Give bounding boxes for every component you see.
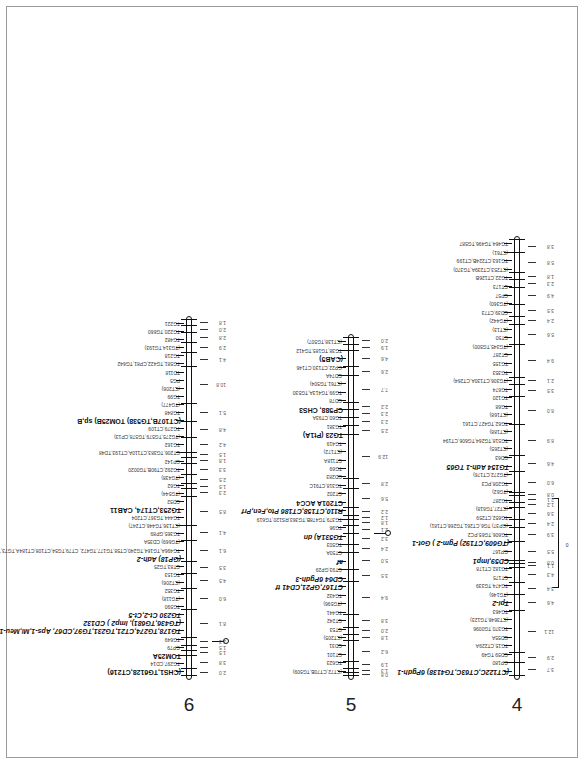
interval-stub: [362, 340, 370, 341]
marker-label: (TG345,TG500): [473, 344, 508, 350]
distance-value: 2.4: [381, 546, 388, 552]
distance-value: 3.4: [547, 586, 554, 592]
locus-tick: [509, 519, 525, 520]
distance-value: 6.1: [219, 548, 226, 554]
marker-leader-line: [504, 628, 512, 629]
interval-stub: [528, 440, 536, 441]
marker-leader-line: [504, 645, 512, 646]
locus-tick: [181, 588, 197, 589]
marker-label: PG5: [170, 378, 180, 384]
marker-label: CP57: [495, 293, 508, 299]
marker-label: TG68: [495, 404, 508, 410]
marker-label: (CT206): [162, 580, 180, 586]
marker-label: TG99: [167, 394, 180, 400]
interval-stub: [362, 630, 370, 631]
interval-stub: [528, 295, 536, 296]
locus-tick: [181, 540, 197, 541]
interval-stub: [362, 670, 370, 671]
locus-tick: [181, 637, 197, 638]
interval-stub: [362, 406, 370, 407]
marker-leader-line: [338, 544, 346, 545]
locus-tick: [509, 492, 525, 493]
distance-value: 5.6: [547, 332, 554, 338]
marker-leader-line: [504, 491, 512, 492]
interval-stub: [528, 320, 536, 321]
marker-leader-line: [176, 501, 184, 502]
marker-leader-line: [338, 527, 346, 528]
locus-tick: [343, 675, 359, 676]
interval-stub: [200, 486, 208, 487]
distance-value: 2.0: [219, 327, 226, 333]
marker-leader-line: [176, 493, 184, 494]
interval-stub: [528, 551, 536, 552]
marker-leader-line: [176, 590, 184, 591]
marker-label: (CT136,TG446,CT247): [129, 523, 180, 529]
interval-stub: [362, 498, 370, 499]
marker-leader-line: [504, 389, 512, 390]
distance-value: 6.0: [547, 480, 554, 486]
interval-stub: [200, 599, 208, 600]
interval-stub: [200, 647, 208, 648]
interval-stub: [362, 561, 370, 562]
interval-stub: [200, 322, 208, 323]
distance-value: 1.9: [381, 662, 388, 668]
marker-leader-line: [176, 550, 184, 551]
distance-value: 3.6: [547, 511, 554, 517]
distance-value: 5.5: [547, 549, 554, 555]
marker-label: TG279,CT109: [148, 426, 180, 432]
interval-stub: [528, 565, 536, 566]
locus-tick: [509, 239, 525, 240]
marker-label: TG62: [167, 483, 180, 489]
distance-value: 2.4: [547, 318, 554, 324]
marker-label: CT202: [327, 491, 342, 497]
marker-leader-line: [176, 469, 184, 470]
marker-leader-line: [338, 612, 346, 613]
interval-stub: [528, 574, 536, 575]
distance-value: 12.1: [544, 629, 554, 635]
interval-stub: [362, 674, 370, 675]
locus-tick: [509, 527, 525, 528]
distance-value: 4.9: [547, 293, 554, 299]
marker-label: CD63: [495, 455, 508, 461]
distance-value: 2.8: [219, 335, 226, 341]
distance-value: 3.2: [381, 536, 388, 542]
marker-leader-line: [504, 414, 512, 415]
marker-label: (TG609,CT192) Pgm-2 ) Got-1: [412, 541, 509, 548]
marker-label: TG154 Adh-1 TG65: [447, 464, 509, 471]
marker-leader-line: [504, 483, 512, 484]
marker-leader-line: [504, 577, 512, 578]
marker-label: TG623: [327, 660, 342, 666]
marker-label: TG60,CT93A: [313, 415, 342, 421]
distance-value: 2.3: [381, 411, 388, 417]
interval-stub: [200, 460, 208, 461]
marker-label: TG218: [165, 353, 180, 359]
distance-value: 3.5: [547, 308, 554, 314]
interval-stub: [362, 529, 370, 530]
chromosome-bar: [186, 316, 192, 680]
interval-stub: [362, 664, 370, 665]
interval-stub: [528, 504, 536, 505]
marker-leader-line: [504, 260, 512, 261]
distance-value: 10.8: [216, 382, 226, 388]
marker-label: TG155: [493, 361, 508, 367]
marker-label: GP180: [492, 660, 508, 666]
chromosome-6: 6 (CHS1,TG6128,CT216)TG297,CD14TOM25AGP7…: [100, 0, 260, 764]
marker-leader-line: [338, 468, 346, 469]
distance-value: 2.6: [381, 369, 388, 375]
locus-tick: [509, 582, 525, 583]
distance-value: 12.9: [378, 454, 388, 460]
marker-leader-line: [176, 347, 184, 348]
marker-leader-line: [504, 619, 512, 620]
distance-value: 8.5: [219, 509, 226, 515]
marker-leader-line: [504, 406, 512, 407]
distance-value: 1.5: [219, 650, 226, 656]
marker-leader-line: [176, 517, 184, 518]
marker-label: CP142: [165, 459, 180, 465]
marker-leader-line: [176, 533, 184, 534]
marker-leader-line: [504, 286, 512, 287]
marker-label: TG474,TG339: [476, 583, 508, 589]
marker-label: TG153: [165, 572, 180, 578]
interval-stub: [362, 517, 370, 518]
locus-tick: [343, 581, 359, 582]
marker-label: (CT122C,CT63C,TG4138) 6Pgdh-1: [397, 669, 509, 676]
